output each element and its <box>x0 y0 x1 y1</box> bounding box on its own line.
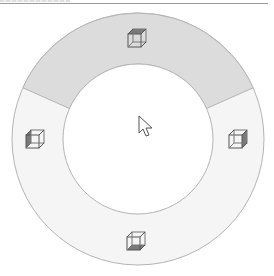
pie-menu-center[interactable] <box>63 64 213 214</box>
pie-menu <box>0 0 274 276</box>
